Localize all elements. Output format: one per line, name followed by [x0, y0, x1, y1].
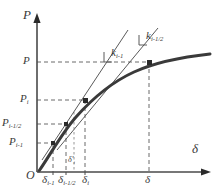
y-tick-Pi-main: P: [20, 92, 27, 104]
x-tick-delta-i-sub: i: [87, 179, 89, 186]
y-tick-Pi-1-main: P: [9, 135, 16, 147]
y-tick-Pi-half-main: P: [2, 116, 9, 128]
y-tick-Pi: Pi: [20, 93, 29, 104]
x-tick-delta-i-1-sub: i-1: [47, 179, 54, 186]
marker-point-i-minus-half: [64, 122, 68, 126]
x-tick-delta-i-half-sub: i-1/2: [63, 179, 75, 186]
inner-annotation-delta-prime-i: δ′i: [68, 156, 75, 164]
x-tick-delta-i-1: δi-1: [42, 174, 54, 185]
slope-label-k-i-minus-1: ki-1: [111, 47, 123, 58]
y-tick-Pi-1: Pi-1: [9, 136, 23, 147]
horizontal-guide-lines: [37, 62, 150, 143]
y-axis-label: P: [23, 8, 31, 21]
slope-label-k-i-minus-1-sub: i-1: [116, 52, 123, 59]
origin-label: O: [26, 169, 35, 181]
y-tick-Pi-half-sub: i-1/2: [9, 122, 21, 129]
load-displacement-curve: [39, 54, 210, 171]
marker-point-i: [83, 98, 88, 103]
y-tick-Pi-half: Pi-1/2: [2, 117, 21, 128]
x-axis-label: δ: [192, 142, 198, 155]
y-tick-Pi-1-sub: i-1: [16, 141, 23, 148]
marker-point-i-minus-1: [51, 141, 55, 145]
y-tick-Pi-sub: i: [27, 98, 29, 105]
inner-annotation-sub: i: [73, 160, 74, 165]
slope-label-k-i-minus-half-sub: i-1/2: [151, 35, 163, 42]
marker-point-final: [147, 60, 152, 65]
x-tick-delta-final-main: δ: [145, 173, 150, 185]
y-tick-P-main: P: [23, 54, 30, 66]
x-tick-delta-final: δ: [145, 174, 150, 185]
load-displacement-plot: [0, 0, 222, 191]
x-tick-delta-i-half: δi-1/2: [58, 174, 76, 185]
figure-canvas: P δ O P Pi Pi-1/2 Pi-1 δi-1 δi-1/2 δi δ …: [0, 0, 222, 191]
x-tick-delta-i: δi: [82, 174, 89, 185]
y-axis: [33, 13, 40, 172]
y-tick-P: P: [23, 55, 30, 66]
slope-label-k-i-minus-half: ki-1/2: [146, 30, 163, 41]
